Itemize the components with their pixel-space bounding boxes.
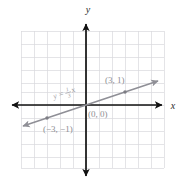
- point-label-3-1: (3, 1): [105, 75, 125, 85]
- point-label-0-0: (0, 0): [88, 109, 108, 119]
- plot-point-negative: [45, 116, 48, 119]
- plot-point-positive: [123, 90, 126, 93]
- figure-background: [0, 0, 187, 179]
- coordinate-plane-figure: y x (3, 1) (0, 0) (−3, −1) y = 1 3 x: [0, 0, 187, 179]
- y-axis-label: y: [85, 4, 91, 15]
- graph-canvas: y x (3, 1) (0, 0) (−3, −1) y = 1 3 x: [0, 0, 187, 179]
- point-label-neg3-neg1: (−3, −1): [43, 124, 73, 134]
- x-axis-label: x: [170, 100, 176, 111]
